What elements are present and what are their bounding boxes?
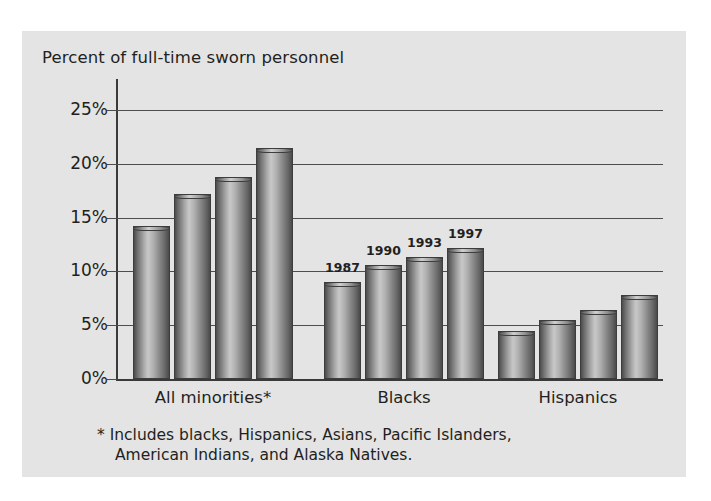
y-tick-mark (107, 110, 117, 111)
series-year-label: 1990 (366, 243, 401, 258)
y-tick-mark (107, 325, 117, 326)
footnote: * Includes blacks, Hispanics, Asians, Pa… (97, 425, 512, 466)
y-axis-line (116, 79, 118, 379)
series-year-label: 1993 (407, 235, 442, 250)
footnote-line-2: American Indians, and Alaska Natives. (115, 445, 512, 465)
bar-cap (539, 320, 576, 325)
bar[interactable] (498, 331, 535, 379)
bar[interactable] (256, 148, 293, 379)
y-tick-mark (107, 164, 117, 165)
y-tick-mark (107, 218, 117, 219)
bar[interactable] (133, 226, 170, 379)
bar[interactable] (621, 295, 658, 379)
x-axis-group-label: Blacks (377, 388, 430, 407)
bar[interactable] (174, 194, 211, 379)
footnote-line-1: * Includes blacks, Hispanics, Asians, Pa… (97, 426, 512, 444)
scan-artifact (8, 2, 138, 12)
y-tick-label: 25% (70, 99, 108, 119)
bar-cap (324, 282, 361, 287)
y-tick-label: 15% (70, 207, 108, 227)
bar[interactable]: 1993 (406, 257, 443, 379)
bar-cap (447, 248, 484, 253)
bar[interactable]: 1997 (447, 248, 484, 379)
bar-cap (215, 177, 252, 182)
bar-group: Hispanics (498, 110, 658, 379)
plot-area: 0%5%10%15%20%25% All minorities*19871990… (117, 110, 663, 379)
bar-cap (174, 194, 211, 199)
x-axis-group-label: All minorities* (155, 388, 271, 407)
bar-cap (256, 148, 293, 153)
series-year-label: 1997 (448, 226, 483, 241)
bar-group: All minorities* (133, 110, 293, 379)
bar[interactable] (539, 320, 576, 379)
y-tick-label: 20% (70, 153, 108, 173)
bar-cap (580, 310, 617, 315)
bar-cap (365, 265, 402, 270)
chart-figure-panel: Percent of full-time sworn personnel 0%5… (22, 31, 686, 477)
bar-cap (621, 295, 658, 300)
x-axis-group-label: Hispanics (539, 388, 618, 407)
bar[interactable]: 1990 (365, 265, 402, 379)
y-tick-mark (107, 271, 117, 272)
bar-cap (406, 257, 443, 262)
chart-title: Percent of full-time sworn personnel (42, 48, 344, 67)
bar-cap (498, 331, 535, 336)
bar[interactable] (215, 177, 252, 379)
y-tick-label: 0% (81, 368, 108, 388)
bar-cap (133, 226, 170, 231)
bar[interactable] (580, 310, 617, 379)
y-tick-label: 10% (70, 260, 108, 280)
bar[interactable]: 1987 (324, 282, 361, 379)
y-tick-label: 5% (81, 314, 108, 334)
bar-group: 1987199019931997Blacks (324, 110, 484, 379)
series-year-label: 1987 (325, 260, 360, 275)
y-tick-mark (107, 379, 117, 380)
